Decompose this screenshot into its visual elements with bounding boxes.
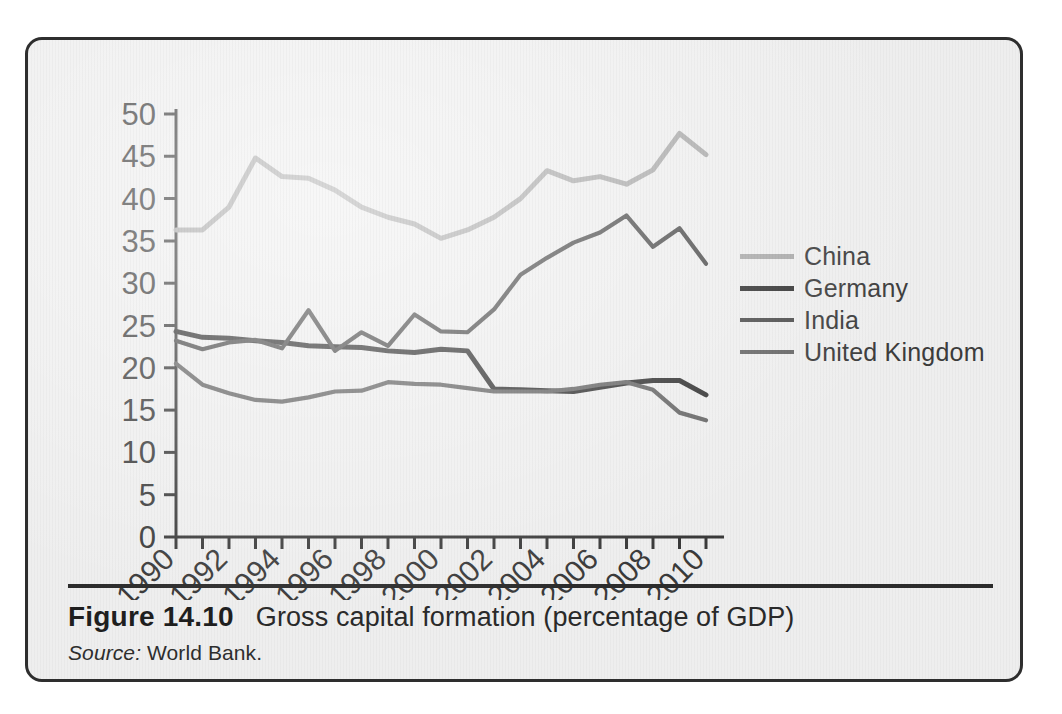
figure-caption-block: Figure 14.10 Gross capital formation (pe… — [68, 584, 993, 665]
series-line-china — [176, 133, 706, 238]
figure-number: Figure 14.10 — [68, 601, 234, 633]
y-axis-tick-label: 15 — [122, 393, 156, 428]
caption-line: Figure 14.10 Gross capital formation (pe… — [68, 601, 993, 633]
legend-item-india: India — [740, 304, 985, 336]
y-axis-tick-label: 5 — [139, 478, 156, 513]
figure-title: Gross capital formation (percentage of G… — [256, 602, 795, 633]
legend-swatch-germany — [740, 286, 794, 291]
series-line-united-kingdom — [176, 364, 706, 421]
legend-item-united-kingdom: United Kingdom — [740, 336, 985, 368]
legend-item-china: China — [740, 240, 985, 272]
chart-legend: China Germany India United Kingdom — [740, 240, 985, 368]
y-axis-tick-label: 25 — [122, 309, 156, 344]
legend-label-united-kingdom: United Kingdom — [804, 340, 985, 365]
source-label: Source: — [68, 641, 141, 664]
figure-source-line: Source: World Bank. — [68, 641, 993, 665]
legend-swatch-united-kingdom — [740, 350, 794, 354]
legend-label-china: China — [804, 244, 870, 269]
legend-label-germany: Germany — [804, 276, 908, 301]
y-axis-tick-label: 30 — [122, 266, 156, 301]
y-axis-tick-label: 45 — [122, 139, 156, 174]
legend-item-germany: Germany — [740, 272, 985, 304]
source-value: World Bank. — [147, 641, 262, 664]
caption-divider-rule — [68, 584, 993, 588]
y-axis-tick-label: 20 — [122, 351, 156, 386]
legend-label-india: India — [804, 308, 859, 333]
y-axis-tick-label: 35 — [122, 224, 156, 259]
figure-card: 0510152025303540455019901992199419961998… — [25, 37, 1023, 682]
legend-swatch-india — [740, 318, 794, 322]
y-axis-tick-label: 50 — [122, 97, 156, 132]
legend-swatch-china — [740, 254, 794, 259]
y-axis-tick-label: 10 — [122, 435, 156, 470]
y-axis-tick-label: 40 — [122, 182, 156, 217]
